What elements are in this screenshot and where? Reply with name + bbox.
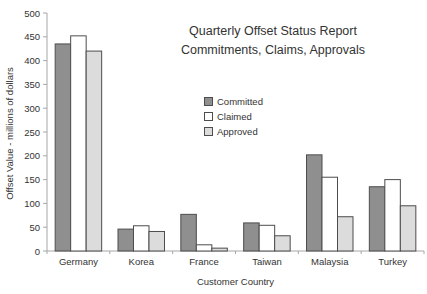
- y-tick-label-250: 250: [24, 127, 40, 138]
- y-tick-label-450: 450: [24, 31, 40, 42]
- bar-turkey-claimed: [385, 180, 401, 251]
- x-category-label-malaysia: Malaysia: [311, 256, 349, 267]
- legend-item-approved: Approved: [204, 124, 263, 139]
- y-tick-label-50: 50: [29, 222, 40, 233]
- bar-germany-approved: [86, 51, 102, 251]
- bar-france-claimed: [196, 245, 212, 251]
- legend-label-claimed: Claimed: [217, 111, 252, 122]
- bar-malaysia-claimed: [322, 177, 338, 251]
- y-tick-label-150: 150: [24, 174, 40, 185]
- chart-title-line2: Commitments, Claims, Approvals: [118, 41, 427, 60]
- bar-korea-committed: [118, 229, 134, 251]
- y-axis-title: Offset Value - millions of dollars: [4, 49, 15, 219]
- bar-malaysia-approved: [338, 217, 354, 251]
- bar-korea-approved: [149, 231, 165, 251]
- x-axis-title: Customer Country: [47, 276, 424, 287]
- x-category-label-germany: Germany: [59, 256, 98, 267]
- x-category-label-france: France: [189, 256, 219, 267]
- x-category-label-korea: Korea: [129, 256, 155, 267]
- y-tick-label-100: 100: [24, 198, 40, 209]
- bar-turkey-committed: [369, 187, 385, 251]
- y-tick-label-350: 350: [24, 79, 40, 90]
- offset-status-bar-chart: 050100150200250300350400450500GermanyKor…: [0, 0, 427, 294]
- y-tick-label-500: 500: [24, 8, 40, 19]
- x-category-label-turkey: Turkey: [378, 256, 407, 267]
- bar-france-committed: [181, 214, 197, 251]
- bar-taiwan-committed: [244, 223, 260, 251]
- legend-swatch-approved: [204, 127, 213, 136]
- y-tick-label-0: 0: [35, 246, 40, 257]
- bar-germany-claimed: [71, 36, 87, 251]
- bar-malaysia-committed: [307, 155, 323, 251]
- chart-title-line1: Quarterly Offset Status Report: [118, 22, 427, 41]
- bar-taiwan-approved: [275, 236, 291, 251]
- x-category-label-taiwan: Taiwan: [252, 256, 282, 267]
- legend-item-claimed: Claimed: [204, 109, 263, 124]
- legend-label-approved: Approved: [217, 126, 258, 137]
- chart-legend: CommittedClaimedApproved: [204, 94, 263, 139]
- legend-swatch-committed: [204, 97, 213, 106]
- y-tick-label-200: 200: [24, 150, 40, 161]
- bar-france-approved: [212, 248, 228, 251]
- y-tick-label-400: 400: [24, 55, 40, 66]
- bar-korea-claimed: [134, 226, 150, 251]
- legend-label-committed: Committed: [217, 96, 263, 107]
- bar-germany-committed: [55, 44, 71, 251]
- legend-swatch-claimed: [204, 112, 213, 121]
- legend-item-committed: Committed: [204, 94, 263, 109]
- y-tick-label-300: 300: [24, 103, 40, 114]
- bar-taiwan-claimed: [259, 225, 275, 251]
- chart-title: Quarterly Offset Status Report Commitmen…: [118, 22, 427, 61]
- bar-turkey-approved: [400, 206, 416, 251]
